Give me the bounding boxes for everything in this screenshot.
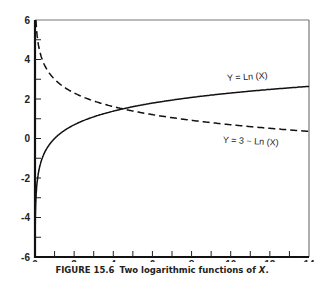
y-tick-label: -6 <box>21 252 30 263</box>
caption-text: Two logarithmic functions of <box>120 265 259 275</box>
chart: 02468101214-6-4-20246 Y = Ln (X)Y = 3 − … <box>0 0 324 262</box>
curve-ln-x <box>35 86 309 255</box>
x-tick-label: 10 <box>225 259 237 262</box>
x-tick-label: 6 <box>150 259 156 262</box>
x-tick-label: 2 <box>71 259 77 262</box>
x-tick-label: 12 <box>264 259 276 262</box>
figure-number: FIGURE 15.6 <box>55 265 114 275</box>
y-tick-label: 0 <box>24 133 30 144</box>
y-tick-label: -2 <box>21 173 30 184</box>
y-tick-label: 6 <box>24 15 30 26</box>
label-3-minus-ln-x: Y = 3 − Ln (X) <box>223 135 279 148</box>
curve-labels: Y = Ln (X)Y = 3 − Ln (X) <box>223 70 279 147</box>
y-tick-label: 2 <box>24 94 30 105</box>
curve-3-minus-ln-x <box>36 20 309 131</box>
y-tick-label: -4 <box>21 212 30 223</box>
label-ln-x: Y = Ln (X) <box>227 70 268 83</box>
figure-caption: FIGURE 15.6Two logarithmic functions of … <box>0 265 324 275</box>
x-tick-label: 4 <box>111 259 117 262</box>
x-tick-label: 0 <box>32 259 38 262</box>
caption-end: . <box>265 265 268 275</box>
x-tick-label: 14 <box>303 259 315 262</box>
y-tick-label: 4 <box>24 54 30 65</box>
x-tick-label: 8 <box>189 259 195 262</box>
